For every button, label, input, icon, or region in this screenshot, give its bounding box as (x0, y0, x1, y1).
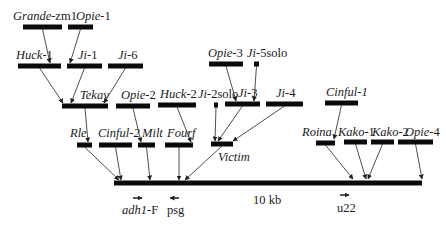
u22-label: u22 (337, 201, 356, 215)
cinful-2-insertion-arrow (116, 147, 122, 180)
psg-primer: psg (167, 198, 185, 217)
fourf-label: Fourf (166, 126, 197, 140)
milt-bar (138, 143, 155, 148)
ji-4-bar (266, 102, 303, 107)
scale-label: 10 kb (253, 193, 281, 207)
rle-insertion-arrow (85, 147, 120, 180)
victim-bar (211, 142, 233, 147)
primer-markers: adh1-Fpsgu22 (122, 195, 356, 217)
ji-2solo-label: Ji-2solo (198, 87, 238, 101)
opie-1-bar (68, 25, 93, 30)
opie-4-label: Opie-4 (405, 125, 440, 139)
opie-4-insertion-arrow (416, 144, 423, 179)
kako-1-label: Kako-1 (337, 125, 375, 139)
kako-1-bar (344, 140, 367, 145)
ji-1-label: Ji-1 (78, 48, 97, 62)
milt-label: Milt (141, 126, 163, 140)
tekay-bar (62, 104, 108, 109)
opie-3-label: Opie-3 (208, 46, 243, 60)
milt-insertion-arrow (147, 147, 151, 180)
ji-5solo-label: Ji-5solo (247, 46, 287, 60)
cinful-2-label: Cinful-2 (98, 126, 140, 140)
ji-1-bar (67, 64, 102, 69)
opie-3-bar (209, 62, 243, 67)
roina-bar (316, 141, 335, 146)
grande-zm1-bar (23, 25, 62, 30)
ji-3-bar (225, 102, 260, 107)
huck-2-label: Huck-2 (159, 87, 197, 101)
kako-2-insertion-arrow (368, 144, 383, 179)
ji-5solo-bar (254, 62, 259, 67)
huck-1-label: Huck-1 (15, 48, 53, 62)
huck-2-bar (158, 103, 196, 108)
fourf-bar (165, 143, 193, 148)
ji-2solo-insertion-arrow (215, 107, 216, 141)
victim-label: Victim (218, 150, 250, 164)
huck-1-bar (18, 64, 61, 69)
tekay-label: Tekay (80, 88, 109, 102)
kako-2-bar (371, 140, 394, 145)
adh1-f-label: adh1-F (122, 203, 158, 217)
adh1-f-primer: adh1-F (122, 198, 158, 217)
cinful-1-bar (325, 101, 358, 106)
ji-3-label: Ji-3 (238, 86, 257, 100)
opie-2-bar (116, 104, 150, 109)
backbone-bar (114, 181, 422, 186)
ji-4-label: Ji-4 (276, 86, 296, 100)
cinful-2-bar (99, 143, 132, 148)
psg-label: psg (167, 203, 185, 217)
kako-2-label: Kako-2 (371, 125, 409, 139)
ji-6-label: Ji-6 (118, 48, 137, 62)
opie-2-label: Opie-2 (121, 88, 156, 102)
kako-1-insertion-arrow (356, 144, 367, 179)
ji-4-insertion-arrow (233, 106, 285, 141)
victim-insertion-arrow (185, 146, 222, 180)
opie-4-bar (398, 140, 433, 145)
ji-3-insertion-arrow (218, 106, 243, 141)
opie-1-label: Opie-1 (76, 9, 111, 23)
ji-6-bar (108, 64, 143, 69)
insertion-diagram: Grande-zm1Opie-1Huck-1Ji-1Ji-6Opie-3Ji-5… (0, 0, 446, 228)
ji-2solo-bar (214, 103, 218, 108)
rle-label: Rle (69, 126, 87, 140)
roina-insertion-arrow (326, 145, 354, 179)
rle-bar (77, 143, 92, 148)
u22-primer: u22 (337, 195, 356, 215)
cinful-1-label: Cinful-1 (326, 85, 368, 99)
grande-zm1-label: Grande-zm1 (13, 9, 77, 23)
huck-1-insertion-arrow (40, 68, 64, 103)
roina-label: Roina (301, 125, 332, 139)
